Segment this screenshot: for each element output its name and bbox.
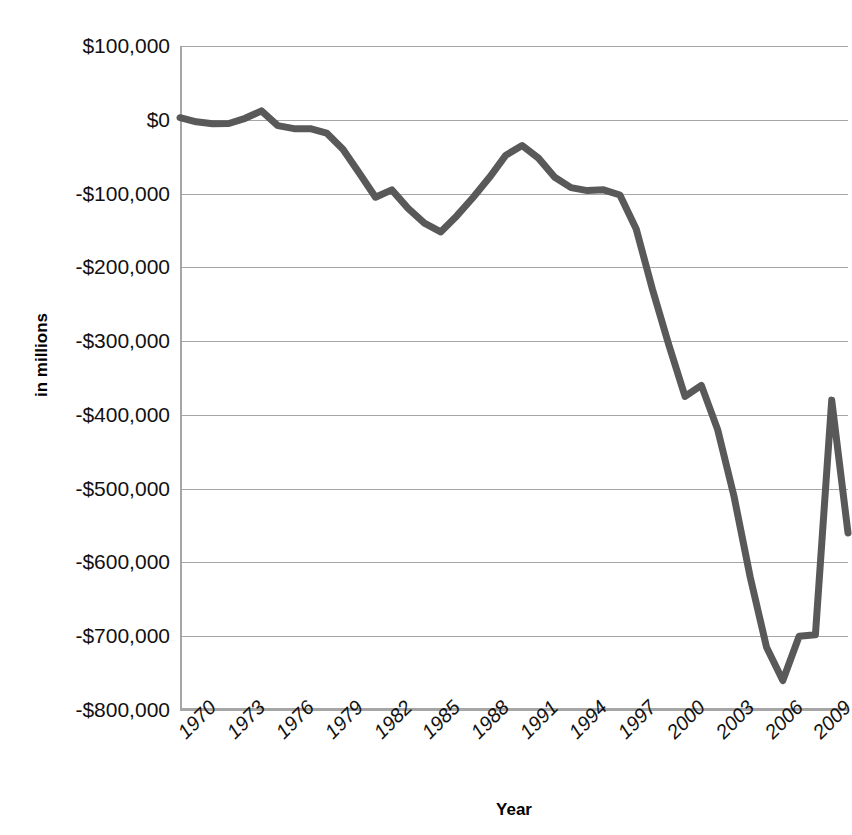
y-tick-label: -$100,000 [20, 183, 170, 204]
y-tick-label: -$500,000 [20, 478, 170, 499]
series-line-budget-deficit [180, 46, 848, 710]
y-axis-tick-labels: $100,000$0-$100,000-$200,000-$300,000-$4… [10, 0, 170, 835]
y-tick-label: -$200,000 [20, 256, 170, 277]
y-tick-label: -$600,000 [20, 551, 170, 572]
y-tick-label: $0 [20, 109, 170, 130]
y-tick-label: -$400,000 [20, 404, 170, 425]
x-axis-tick-labels: 1970197319761979198219851988199119941997… [180, 710, 852, 800]
x-axis-title: Year [180, 800, 848, 820]
y-tick-label: $100,000 [20, 35, 170, 56]
y-tick-label: -$800,000 [20, 699, 170, 720]
y-tick-label: -$700,000 [20, 625, 170, 646]
line-chart: in millions $100,000$0-$100,000-$200,000… [0, 0, 852, 835]
y-tick-label: -$300,000 [20, 330, 170, 351]
plot-area [180, 46, 848, 710]
